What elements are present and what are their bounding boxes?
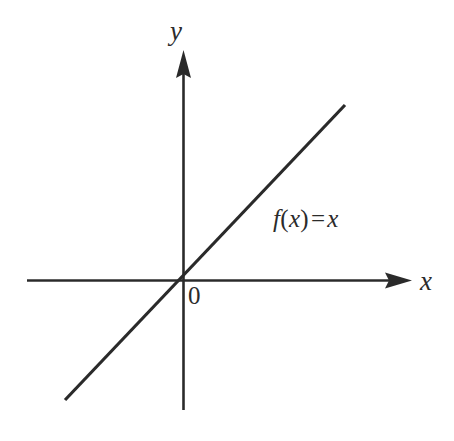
function-line-fx-equals-x [65, 105, 345, 400]
math-figure-canvas: y x 0 f(x)=x [0, 0, 454, 441]
function-argument: x [289, 205, 300, 232]
x-axis-arrowhead-icon [385, 273, 412, 289]
function-open-paren: ( [280, 205, 289, 232]
x-axis-label: x [420, 268, 432, 295]
function-equals-sign: = [309, 205, 327, 232]
function-right-hand-side: x [327, 205, 338, 232]
coordinate-plane-graphic [0, 0, 454, 441]
y-axis-label: y [170, 18, 182, 45]
y-axis-arrowhead-icon [176, 50, 191, 78]
function-equation-label: f(x)=x [273, 206, 339, 231]
function-close-paren: ) [300, 205, 309, 232]
origin-label: 0 [188, 283, 201, 308]
